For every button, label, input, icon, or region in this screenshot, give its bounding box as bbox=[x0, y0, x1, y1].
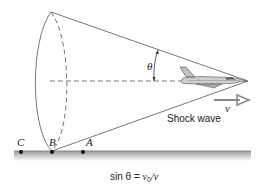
svg-text:C: C bbox=[17, 136, 25, 148]
svg-text:B: B bbox=[49, 136, 56, 148]
velocity-arrow: v bbox=[214, 95, 249, 114]
svg-text:A: A bbox=[85, 136, 93, 148]
velocity-label: v bbox=[225, 102, 230, 114]
equation: sin θ = v0/v bbox=[110, 171, 159, 183]
shock-wave-diagram: θ v Shock wave C B A sin θ = v0/v bbox=[0, 0, 267, 189]
angle-label: θ bbox=[147, 60, 153, 72]
angle-indicator: θ bbox=[147, 50, 159, 81]
shock-wave-label: Shock wave bbox=[167, 113, 221, 124]
ground bbox=[14, 151, 251, 161]
